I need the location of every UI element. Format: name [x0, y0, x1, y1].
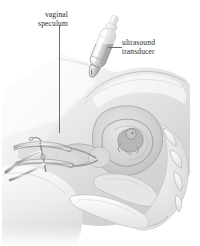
figure-panel: vaginal speculum ultrasound transducer — [0, 0, 200, 246]
medical-illustration — [0, 0, 200, 246]
leader-line-vaginal-speculum — [59, 25, 60, 133]
leader-line-ultrasound-transducer — [108, 47, 122, 48]
label-vaginal-speculum-line1: vaginal — [6, 10, 68, 19]
label-vaginal-speculum-line2: speculum — [6, 19, 68, 28]
label-ultrasound-transducer-line1: ultrasound — [122, 38, 155, 47]
label-ultrasound-transducer: ultrasound transducer — [122, 38, 155, 57]
label-vaginal-speculum: vaginal speculum — [6, 10, 68, 29]
label-ultrasound-transducer-line2: transducer — [122, 47, 155, 56]
bladder — [88, 147, 110, 167]
